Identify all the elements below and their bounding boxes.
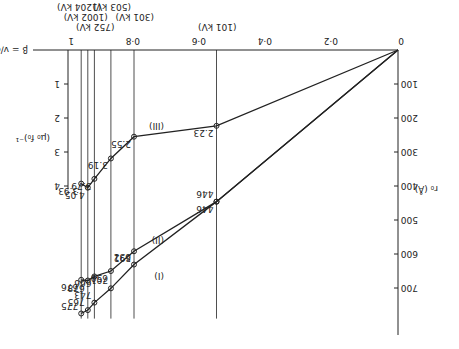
data-label: 2.23 (193, 128, 213, 138)
series-label: (I) (154, 271, 164, 281)
energy-label: (301 kV) (116, 12, 154, 22)
series-line (81, 50, 398, 188)
inv-axis-label: (μ₀ f₀)⁻¹ (15, 133, 50, 143)
energy-label: (1002 kV) (64, 12, 108, 22)
x-tick-label: 0·4 (257, 36, 272, 46)
data-label: 592 (114, 253, 131, 263)
r0-tick-label: 500 (401, 215, 418, 225)
energy-label: (101 kV) (198, 22, 236, 32)
x-tick-label: 0·8 (125, 36, 140, 46)
inv-tick-label: 1 (54, 79, 60, 89)
data-label: 775 (61, 301, 78, 311)
data-label: 676 (61, 282, 78, 292)
r0-tick-label: 200 (401, 113, 418, 123)
energy-label: (1204 kV) (57, 2, 101, 12)
data-label: 3.93 (58, 186, 78, 196)
data-label: 3.19 (88, 160, 108, 170)
x-tick-label: 1 (68, 36, 74, 46)
r0-tick-label: 700 (401, 283, 418, 293)
data-label: 446 (196, 189, 213, 199)
r0-axis-label: r₀ (Å) (415, 184, 438, 195)
x-axis-label: β = v/c (0, 45, 28, 55)
inv-tick-label: 3 (54, 147, 60, 157)
chart: 00·20·40·60·811002003004005006007001234(… (0, 0, 459, 349)
r0-tick-label: 300 (401, 147, 418, 157)
x-tick-label: 0 (398, 36, 404, 46)
x-tick-label: 0·6 (191, 36, 206, 46)
inv-tick-label: 2 (54, 113, 60, 123)
energy-label: (752 kV) (76, 22, 114, 32)
r0-tick-label: 600 (401, 249, 418, 259)
series-line (81, 50, 398, 281)
series-label: (III) (149, 121, 164, 131)
series-label: (II) (152, 235, 164, 245)
r0-tick-label: 100 (401, 79, 418, 89)
data-label: 2.55 (111, 139, 131, 149)
data-label: 446 (196, 204, 213, 214)
x-tick-label: 0·2 (324, 36, 338, 46)
